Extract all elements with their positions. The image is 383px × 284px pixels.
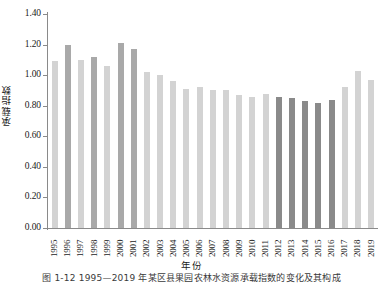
x-tick-slot: 1995 [48,231,61,257]
bar [52,61,58,228]
x-axis-tick-label: 2017 [340,231,349,257]
x-axis-tick-label: 2016 [327,231,336,257]
y-axis-tick-label: 1.40 [1,9,41,19]
bar [197,87,203,228]
x-axis-tick-label: 2012 [274,231,283,257]
bar [104,66,110,228]
bar-slot [140,14,153,228]
x-tick-slot: 2019 [365,231,378,257]
bar [78,60,84,228]
figure-caption: 图 1-12 1995—2019 年某区县果园农林水资源承载指数的变化及其构成 [0,271,383,284]
x-tick-slot: 2008 [219,231,232,257]
bar [342,87,348,228]
bar [289,98,295,228]
bar-slot [299,14,312,228]
x-axis-tick-label: 2007 [208,231,217,257]
x-axis-tick-label: 2009 [235,231,244,257]
bar-slot [167,14,180,228]
x-tick-slot: 2007 [206,231,219,257]
bar [65,45,71,228]
bar [315,103,321,228]
bar [91,57,97,228]
x-axis-tick-label: 1995 [50,231,59,257]
x-tick-slot: 2000 [114,231,127,257]
bar-slot [246,14,259,228]
bar-slot [351,14,364,228]
x-axis-tick-label: 2014 [301,231,310,257]
bar-slot [285,14,298,228]
x-tick-slot: 2006 [193,231,206,257]
y-axis-tick-label: 1.00 [1,70,41,80]
bar [131,49,137,228]
bar-slot [272,14,285,228]
bar-slot [312,14,325,228]
x-tick-slot: 2012 [272,231,285,257]
x-axis-tick-label: 2010 [248,231,257,257]
x-tick-slot: 2005 [180,231,193,257]
bar [118,43,124,228]
x-tick-slot: 2014 [299,231,312,257]
y-axis-tick-label: 0.00 [1,223,41,233]
x-axis-tick-label: 2003 [156,231,165,257]
x-tick-slot: 2010 [246,231,259,257]
x-axis-tick-label: 1998 [90,231,99,257]
x-axis-tick-labels: 1995199619971998199920002001200220032004… [48,231,378,257]
x-axis-tick-label: 2002 [142,231,151,257]
x-tick-slot: 2013 [285,231,298,257]
y-axis-tick-label: 0.20 [1,192,41,202]
x-tick-slot: 2016 [325,231,338,257]
bar-series [48,14,378,228]
x-tick-slot: 2004 [167,231,180,257]
y-axis-title: 承载指数 [2,84,18,126]
bar [368,80,374,228]
bar-slot [114,14,127,228]
x-tick-slot: 1997 [74,231,87,257]
x-axis-tick-label: 2005 [182,231,191,257]
x-axis-tick-label: 1997 [76,231,85,257]
x-tick-slot: 2001 [127,231,140,257]
bar [183,89,189,228]
x-axis-tick-label: 2013 [287,231,296,257]
x-axis-title: 年份 [0,258,383,272]
x-tick-slot: 2003 [154,231,167,257]
y-axis-tick-label: 0.40 [1,162,41,172]
bar [276,97,282,228]
bar-slot [101,14,114,228]
bar [144,72,150,228]
x-axis-tick-label: 1999 [103,231,112,257]
bar [170,81,176,228]
bar-slot [127,14,140,228]
bar-slot [88,14,101,228]
bar-slot [233,14,246,228]
bar [223,90,229,228]
x-axis-line [47,228,378,229]
bar [249,97,255,228]
y-axis-tick-label: 0.60 [1,131,41,141]
bar-slot [154,14,167,228]
bar-slot [206,14,219,228]
bar-slot [219,14,232,228]
x-tick-slot: 1998 [88,231,101,257]
bar-slot [48,14,61,228]
bar-slot [180,14,193,228]
bar-slot [325,14,338,228]
x-axis-tick-label: 2019 [367,231,376,257]
x-axis-tick-label: 2006 [195,231,204,257]
x-axis-tick-label: 2018 [353,231,362,257]
bar [157,75,163,228]
x-axis-tick-label: 1996 [63,231,72,257]
bar-slot [74,14,87,228]
x-axis-tick-label: 2015 [314,231,323,257]
x-tick-slot: 2015 [312,231,325,257]
x-tick-slot: 1999 [101,231,114,257]
bar [236,95,242,228]
bar-slot [338,14,351,228]
bar [329,100,335,228]
x-tick-slot: 1996 [61,231,74,257]
bar [210,90,216,228]
bar [263,94,269,229]
x-tick-slot: 2018 [351,231,364,257]
bar-slot [61,14,74,228]
x-axis-tick-label: 2011 [261,231,270,257]
